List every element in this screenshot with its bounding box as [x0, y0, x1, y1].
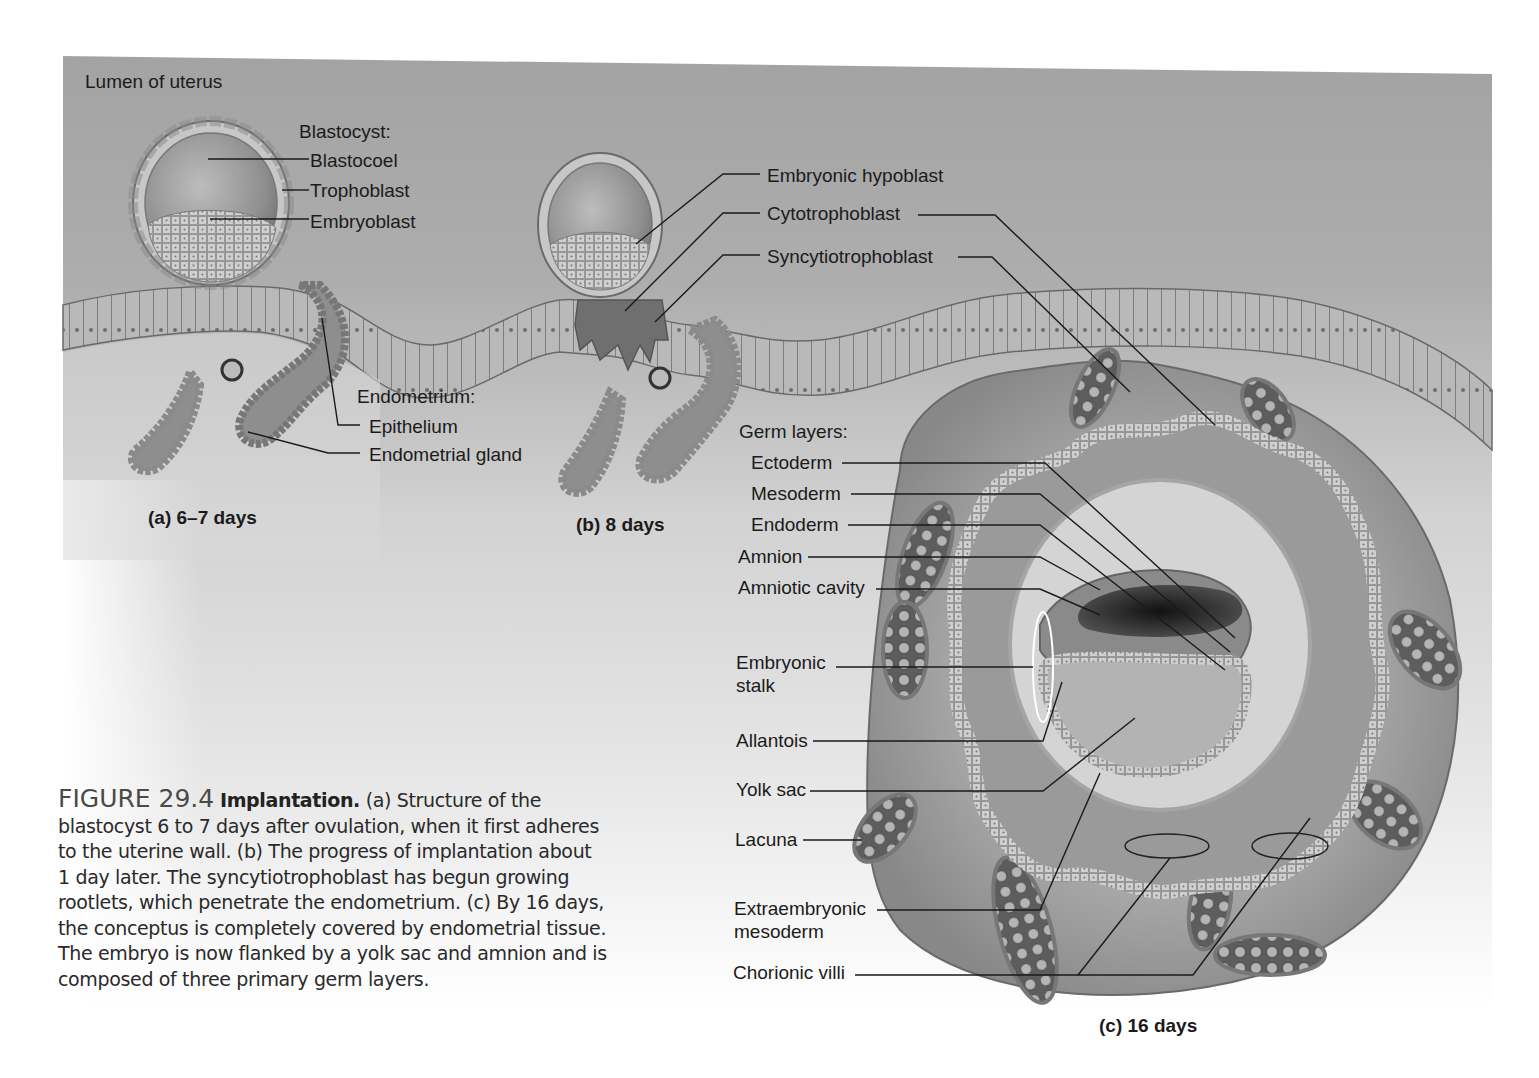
- label-extraembryonic-line1: Extraembryonic: [734, 898, 866, 920]
- label-trophoblast: Trophoblast: [310, 180, 410, 202]
- label-endoderm: Endoderm: [751, 514, 839, 536]
- figure-title: Implantation.: [220, 789, 360, 811]
- blastocyst-a: [133, 121, 289, 285]
- label-ectoderm: Ectoderm: [751, 452, 832, 474]
- caption-line: The embryo is now flanked by a yolk sac …: [58, 942, 607, 964]
- implantation-figure: Lumen of uterus Blastocyst: Blastocoel T…: [0, 0, 1539, 1078]
- panel-label-b: (b) 8 days: [576, 514, 665, 536]
- caption-line: to the uterine wall. (b) The progress of…: [58, 840, 591, 862]
- label-endometrium-heading: Endometrium:: [357, 386, 475, 408]
- label-cytotrophoblast: Cytotrophoblast: [767, 203, 900, 225]
- label-mesoderm: Mesoderm: [751, 483, 841, 505]
- label-syncytiotrophoblast: Syncytiotrophoblast: [767, 246, 933, 268]
- label-blastocyst-heading: Blastocyst:: [299, 121, 391, 143]
- label-amnion: Amnion: [738, 546, 802, 568]
- label-embryonic-hypoblast: Embryonic hypoblast: [767, 165, 943, 187]
- label-amniotic-cavity: Amniotic cavity: [738, 577, 865, 599]
- label-extraembryonic-line2: mesoderm: [734, 921, 824, 943]
- label-embryonic-stalk-line2: stalk: [736, 675, 775, 697]
- panel-label-c: (c) 16 days: [1099, 1015, 1197, 1037]
- label-germ-layers-heading: Germ layers:: [739, 421, 848, 443]
- caption-line: blastocyst 6 to 7 days after ovulation, …: [58, 815, 599, 837]
- caption-line: composed of three primary germ layers.: [58, 968, 429, 990]
- label-endometrial-gland: Endometrial gland: [369, 444, 522, 466]
- label-yolk-sac: Yolk sac: [736, 779, 806, 801]
- label-embryoblast: Embryoblast: [310, 211, 416, 233]
- figure-caption: FIGURE 29.4 Implantation. (a) Structure …: [58, 786, 638, 992]
- caption-line: 1 day later. The syncytiotrophoblast has…: [58, 866, 569, 888]
- label-lumen-of-uterus: Lumen of uterus: [85, 71, 222, 93]
- label-allantois: Allantois: [736, 730, 808, 752]
- label-blastocoel: Blastocoel: [310, 150, 398, 172]
- panel-label-a: (a) 6–7 days: [148, 507, 257, 529]
- label-chorionic-villi: Chorionic villi: [733, 962, 845, 984]
- label-epithelium: Epithelium: [369, 416, 458, 438]
- label-embryonic-stalk-line1: Embryonic: [736, 652, 826, 674]
- caption-line: (a) Structure of the: [366, 789, 541, 811]
- figure-number: FIGURE 29.4: [58, 784, 214, 813]
- caption-line: the conceptus is completely covered by e…: [58, 917, 606, 939]
- label-lacuna: Lacuna: [735, 829, 797, 851]
- caption-line: rootlets, which penetrate the endometriu…: [58, 891, 604, 913]
